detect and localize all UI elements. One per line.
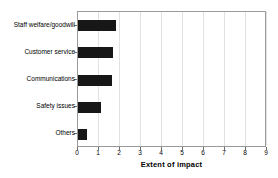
y-category-label: Customer service	[0, 48, 75, 56]
gridline	[203, 12, 204, 146]
gridline	[224, 12, 225, 146]
gridline	[140, 12, 141, 146]
gridline	[119, 12, 120, 146]
bar	[78, 102, 101, 113]
x-tick-label: 3	[133, 149, 147, 157]
x-tick-label: 9	[259, 149, 273, 157]
x-tick-label: 0	[70, 149, 84, 157]
x-tick-label: 8	[238, 149, 252, 157]
bar	[78, 20, 116, 31]
y-category-label: Staff welfare/goodwill	[0, 21, 75, 29]
x-tick-label: 1	[91, 149, 105, 157]
gridline	[182, 12, 183, 146]
y-category-label: Safety issues	[0, 102, 75, 110]
bar	[78, 129, 87, 140]
x-axis-title: Extent of impact	[77, 160, 266, 169]
y-category-label: Others	[0, 129, 75, 137]
plot-area	[77, 11, 266, 147]
x-tick-label: 5	[175, 149, 189, 157]
x-tick-label: 4	[154, 149, 168, 157]
bar	[78, 75, 112, 86]
bar	[78, 47, 113, 58]
gridline	[245, 12, 246, 146]
x-tick-label: 7	[217, 149, 231, 157]
x-tick-label: 2	[112, 149, 126, 157]
bar-chart: Extent of impact 0123456789Staff welfare…	[0, 0, 278, 178]
x-tick-label: 6	[196, 149, 210, 157]
gridline	[266, 12, 267, 146]
gridline	[161, 12, 162, 146]
y-category-label: Communications	[0, 75, 75, 83]
